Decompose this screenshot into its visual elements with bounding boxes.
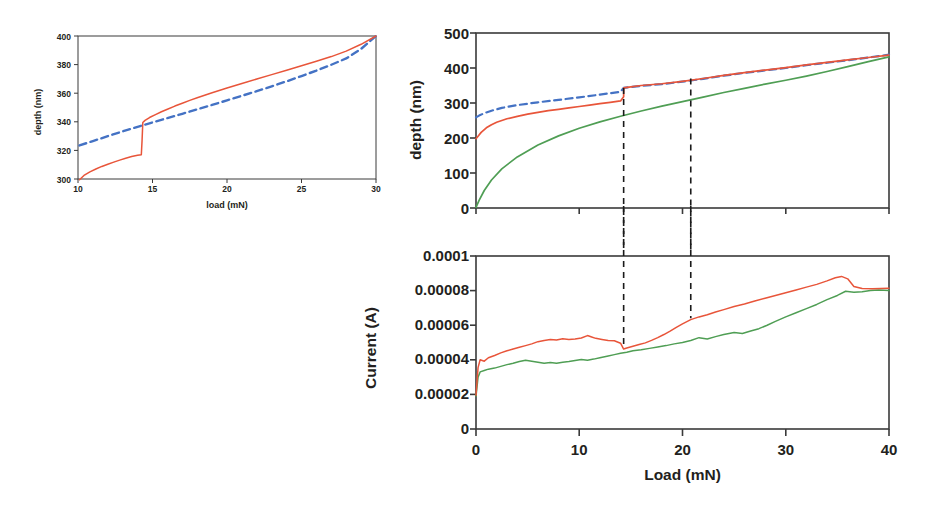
bottom-right-panel-svg: Current (A) 0.0001 0.00008 0.00006 0.000… bbox=[400, 250, 930, 510]
topright-ytick-0: 0 bbox=[461, 200, 469, 217]
figure-root: depth (nm) 400 380 360 340 320 300 10 15… bbox=[0, 0, 930, 510]
bottomright-curve-green bbox=[476, 290, 889, 396]
bottomright-ytick-0.00008: 0.00008 bbox=[415, 281, 469, 298]
bottomright-curves bbox=[476, 276, 889, 396]
topright-plot-frame bbox=[476, 33, 889, 208]
left-xtick-25: 25 bbox=[297, 184, 307, 194]
bottomright-ylabel: Current (A) bbox=[362, 307, 379, 389]
topright-ytick-100: 100 bbox=[444, 165, 469, 182]
topright-guide-lines bbox=[624, 79, 691, 251]
topright-ytick-500: 500 bbox=[444, 25, 469, 42]
left-curve-reference bbox=[79, 36, 376, 145]
left-xtick-15: 15 bbox=[148, 184, 158, 194]
bottomright-xlabel: Load (mN) bbox=[644, 466, 721, 483]
left-panel-svg: depth (nm) 400 380 360 340 320 300 10 15… bbox=[0, 0, 400, 250]
left-ytick-320: 320 bbox=[57, 146, 71, 156]
left-curves bbox=[79, 36, 376, 180]
bottomright-xtick-10: 10 bbox=[571, 441, 588, 458]
left-ytick-360: 360 bbox=[57, 89, 71, 99]
bottomright-ytick-0.0001: 0.0001 bbox=[423, 247, 469, 264]
topright-ylabel: depth (nm) bbox=[407, 80, 424, 160]
bottomright-ytick-0.00006: 0.00006 bbox=[415, 316, 469, 333]
left-ylabel: depth (nm) bbox=[33, 89, 43, 136]
left-ytick-300: 300 bbox=[57, 175, 71, 185]
left-ytick-400: 400 bbox=[57, 32, 71, 42]
topright-ytick-200: 200 bbox=[444, 130, 469, 147]
topright-ytick-400: 400 bbox=[444, 60, 469, 77]
panel-top-right-depth: depth (nm) 500 400 300 200 100 0 bbox=[400, 0, 930, 250]
left-plot-frame bbox=[78, 36, 376, 179]
bottomright-ytick-0: 0 bbox=[461, 420, 469, 437]
left-xlabel: load (mN) bbox=[206, 200, 248, 210]
panel-bottom-right-current: Current (A) 0.0001 0.00008 0.00006 0.000… bbox=[400, 250, 930, 510]
bottomright-curve-red bbox=[476, 276, 889, 395]
left-ytick-340: 340 bbox=[57, 117, 71, 127]
bottomright-xtick-20: 20 bbox=[674, 441, 691, 458]
left-xtick-20: 20 bbox=[222, 184, 232, 194]
topright-axis-ticks bbox=[470, 33, 889, 214]
bottomright-xtick-30: 30 bbox=[777, 441, 794, 458]
topright-curves bbox=[476, 55, 889, 208]
left-ytick-380: 380 bbox=[57, 60, 71, 70]
left-xtick-30: 30 bbox=[371, 184, 381, 194]
bottomright-xtick-40: 40 bbox=[881, 441, 898, 458]
top-right-panel-svg: depth (nm) 500 400 300 200 100 0 bbox=[400, 0, 930, 250]
bottomright-xtick-0: 0 bbox=[472, 441, 480, 458]
topright-curve-reference bbox=[476, 55, 889, 118]
left-curve-measured bbox=[79, 36, 376, 180]
topright-ytick-300: 300 bbox=[444, 95, 469, 112]
topright-curve-green bbox=[476, 57, 889, 208]
bottomright-axis-ticks bbox=[470, 256, 889, 436]
left-xtick-10: 10 bbox=[73, 184, 83, 194]
panel-left-popin: depth (nm) 400 380 360 340 320 300 10 15… bbox=[0, 0, 400, 250]
bottomright-ytick-0.00004: 0.00004 bbox=[415, 350, 470, 367]
bottomright-ytick-0.00002: 0.00002 bbox=[415, 385, 469, 402]
topright-curve-red bbox=[476, 55, 889, 139]
